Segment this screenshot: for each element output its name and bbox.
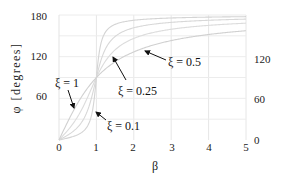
annotation-xi-0.25: ξ = 0.25 [118, 84, 157, 98]
annotation-xi-1: ξ = 1 [55, 76, 79, 90]
arrow-xi-0.5 [145, 51, 166, 60]
x-tick-label: 4 [206, 141, 212, 153]
x-axis-label: β [152, 159, 158, 173]
x-tick-label: 2 [130, 141, 136, 153]
y-left-tick-label: 120 [31, 50, 48, 62]
arrow-xi-1 [68, 90, 74, 108]
series-line-xi-0.25 [59, 19, 246, 140]
series-line-xi-0.5 [59, 23, 246, 140]
series-line-xi-0.1 [59, 17, 246, 140]
x-tick-label: 3 [169, 141, 175, 153]
curves [59, 17, 246, 140]
y-axis-label: φ [degrees] [9, 42, 23, 113]
x-tick-label: 5 [243, 141, 249, 153]
phase-chart: 0 1 2 3 4 5 60 120 180 0 60 120 β φ [deg… [0, 0, 283, 184]
x-tick-label: 0 [56, 141, 62, 153]
y-left-tick-label: 180 [31, 10, 48, 22]
y-right-tick-label: 120 [254, 53, 271, 65]
arrow-xi-0.25 [113, 57, 126, 80]
x-tick-label: 1 [93, 141, 99, 153]
y-right-tick-label: 60 [254, 93, 266, 105]
annotation-xi-0.5: ξ = 0.5 [168, 55, 201, 69]
y-left-tick-label: 60 [36, 90, 48, 102]
y-right-tick-label: 0 [254, 134, 260, 146]
annotation-xi-0.1: ξ = 0.1 [107, 119, 140, 133]
